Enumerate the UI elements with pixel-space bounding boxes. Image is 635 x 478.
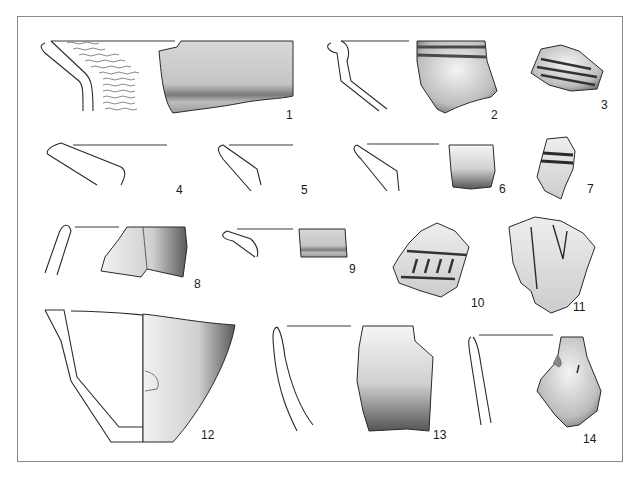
figure-label-7: 7 xyxy=(587,182,594,196)
sherd-8: 8 xyxy=(45,225,201,291)
sherd-4: 4 xyxy=(47,143,183,197)
sherd-2: 2 xyxy=(328,41,498,122)
sherd-1: 1 xyxy=(41,41,293,122)
figure-label-9: 9 xyxy=(349,262,356,276)
sherd-14: 14 xyxy=(469,335,601,446)
figure-drawing: 1 2 3 4 5 6 7 xyxy=(18,17,624,463)
figure-label-14: 14 xyxy=(583,432,597,446)
sherd-3: 3 xyxy=(531,45,608,112)
sherd-13: 13 xyxy=(273,326,447,442)
figure-label-10: 10 xyxy=(471,296,485,310)
sherd-7: 7 xyxy=(537,137,594,199)
figure-label-2: 2 xyxy=(491,108,498,122)
figure-label-4: 4 xyxy=(176,183,183,197)
sherd-10: 10 xyxy=(393,223,485,310)
sherd-5: 5 xyxy=(218,145,308,197)
sherd-12: 12 xyxy=(45,310,235,442)
sherd-6: 6 xyxy=(354,144,506,196)
figure-label-11: 11 xyxy=(573,300,586,314)
figure-plate: 1 2 3 4 5 6 7 xyxy=(17,16,623,462)
sherd-9: 9 xyxy=(223,229,356,276)
sherd-11: 11 xyxy=(509,217,595,314)
figure-label-1: 1 xyxy=(286,108,293,122)
figure-label-6: 6 xyxy=(499,182,506,196)
figure-label-13: 13 xyxy=(433,428,447,442)
figure-label-3: 3 xyxy=(601,98,608,112)
figure-label-8: 8 xyxy=(194,277,201,291)
figure-label-5: 5 xyxy=(301,183,308,197)
figure-label-12: 12 xyxy=(201,428,215,442)
